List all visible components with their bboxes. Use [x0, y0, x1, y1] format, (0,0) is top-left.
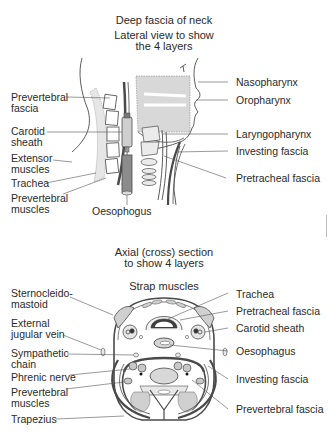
label-pretracheal-fascia-axial: Pretracheal fascia	[236, 306, 320, 317]
label-prevertebral-fascia-axial: Prevertebral fascia	[236, 404, 324, 415]
label-trachea-axial: Trachea	[236, 289, 274, 300]
label-phrenic-nerve: Phrenic nerve	[11, 372, 76, 383]
label-prevertebral-muscles-axial-2: muscles	[11, 398, 50, 409]
label-oesophagus-axial: Oesophagus	[236, 346, 296, 357]
label-external-jugular-vein-2: jugular vein	[11, 329, 65, 340]
label-trapezius: Trapezius	[11, 414, 57, 425]
label-carotid-sheath-axial: Carotid sheath	[236, 323, 304, 334]
label-sympathetic-chain-2: chain	[11, 359, 36, 370]
label-investing-fascia-axial: Investing fascia	[236, 374, 308, 385]
label-sternocleidomastoid-2: mastoid	[11, 299, 48, 310]
